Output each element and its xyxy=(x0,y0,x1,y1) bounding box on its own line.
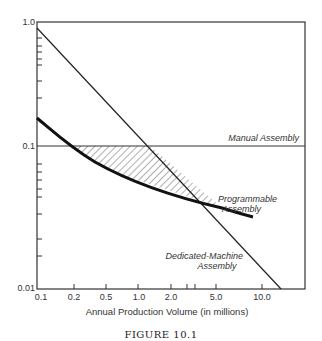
plot-frame xyxy=(37,22,305,289)
x-ticks xyxy=(74,284,262,289)
programmable-label-1: Programmable xyxy=(218,194,277,204)
hatched-region xyxy=(69,146,222,208)
y-tick-001: 0.01 xyxy=(17,283,35,293)
x-tick-b: 0.2 xyxy=(68,292,81,302)
x-tick-g: 10.0 xyxy=(253,292,271,302)
y-ticks xyxy=(37,38,42,256)
chart: Manual Assembly Programmable Assembly De… xyxy=(0,0,322,341)
y-tick-01: 0.1 xyxy=(22,141,35,151)
manual-assembly-label: Manual Assembly xyxy=(228,133,299,143)
x-tick-d: 1.0 xyxy=(133,292,146,302)
programmable-label-2: Assembly xyxy=(221,204,262,214)
dedicated-label-1: Dedicated-Machine xyxy=(165,251,243,261)
x-tick-c: 0.5 xyxy=(100,292,113,302)
dedicated-machine-line xyxy=(37,28,281,289)
figure-caption: FIGURE 10.1 xyxy=(124,329,197,340)
x-tick-f: 5.0 xyxy=(210,292,223,302)
x-tick-a: 0.1 xyxy=(35,292,48,302)
dedicated-label-2: Assembly xyxy=(196,261,237,271)
x-tick-e: 2.0 xyxy=(165,292,178,302)
y-tick-1: 1.0 xyxy=(22,17,35,27)
x-axis-label: Annual Production Volume (in millions) xyxy=(86,306,249,317)
